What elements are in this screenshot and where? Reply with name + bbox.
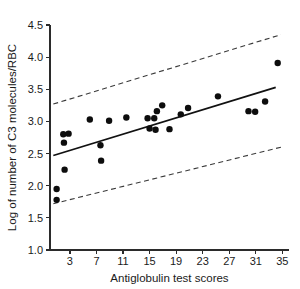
- x-axis-ticks: 3711151923273135: [67, 250, 289, 267]
- y-axis-ticks: 1.01.52.02.53.03.54.04.5: [28, 19, 50, 256]
- y-tick-label: 1.0: [28, 244, 43, 256]
- data-point: [185, 105, 191, 111]
- x-tick-label: 3: [67, 255, 73, 267]
- data-point: [97, 142, 103, 148]
- y-tick-label: 2.0: [28, 180, 43, 192]
- data-point: [166, 126, 172, 132]
- data-point: [159, 102, 165, 108]
- data-point: [151, 115, 157, 121]
- data-point: [215, 93, 221, 99]
- x-tick-label: 19: [170, 255, 182, 267]
- scatter-chart: 1.01.52.02.53.03.54.04.5 371115192327313…: [0, 0, 300, 289]
- data-point: [98, 157, 104, 163]
- x-tick-label: 23: [197, 255, 209, 267]
- data-point: [53, 197, 59, 203]
- confidence-band-line: [53, 35, 281, 104]
- data-point: [61, 166, 67, 172]
- y-tick-label: 4.0: [28, 51, 43, 63]
- axis-lines: [50, 25, 289, 250]
- x-tick-label: 15: [143, 255, 155, 267]
- data-point: [245, 108, 251, 114]
- data-point: [61, 139, 67, 145]
- y-axis-title: Log of number of C3 molecules/RBC: [6, 44, 18, 231]
- data-point: [53, 186, 59, 192]
- confidence-band-line: [53, 147, 281, 204]
- data-point: [275, 60, 281, 66]
- regression-line: [53, 87, 275, 155]
- x-tick-label: 27: [223, 255, 235, 267]
- y-tick-label: 3.5: [28, 83, 43, 95]
- data-point: [123, 114, 129, 120]
- data-point: [178, 111, 184, 117]
- data-point: [65, 130, 71, 136]
- plot-canvas: 1.01.52.02.53.03.54.04.5 371115192327313…: [0, 0, 300, 289]
- y-tick-label: 4.5: [28, 19, 43, 31]
- data-point: [144, 115, 150, 121]
- x-tick-label: 7: [93, 255, 99, 267]
- data-point: [106, 118, 112, 124]
- data-points: [53, 60, 280, 203]
- data-point: [252, 109, 258, 115]
- y-tick-label: 2.5: [28, 148, 43, 160]
- y-tick-label: 3.0: [28, 115, 43, 127]
- x-tick-label: 11: [117, 255, 128, 267]
- x-tick-label: 35: [276, 255, 288, 267]
- data-point: [87, 116, 93, 122]
- data-point: [152, 127, 158, 133]
- y-tick-label: 1.5: [28, 212, 43, 224]
- data-point: [146, 125, 152, 131]
- data-point: [262, 98, 268, 104]
- x-tick-label: 31: [250, 255, 262, 267]
- x-axis-title: Antiglobulin test scores: [110, 272, 229, 284]
- data-point: [154, 108, 160, 114]
